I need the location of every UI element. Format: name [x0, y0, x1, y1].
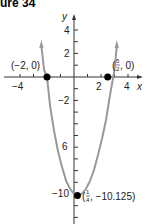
tick-label-x-2: 2: [96, 81, 102, 92]
x-axis-label: x: [136, 81, 143, 92]
tick-label-x-4: 4: [124, 81, 130, 92]
parabola-curve-fit: [41, 46, 116, 196]
tick-label-y-2: 2: [64, 48, 70, 59]
point-label-left: (−2, 0): [11, 60, 40, 71]
y-ticks: [74, 30, 78, 217]
parabola-chart: x y −4 2 4 4 2 −2 6 −10 (−2, 0) ( 5 2 , …: [0, 0, 147, 224]
y-axis-label: y: [61, 11, 68, 22]
point-x-intercept-right: [104, 74, 111, 81]
point-label-vertex-close: , −10.125): [90, 191, 135, 202]
point-x-intercept-left: [44, 74, 51, 81]
tick-label-y-m10: −10: [52, 188, 69, 199]
tick-label-y-m6: 6: [62, 141, 68, 152]
tick-label-y-4: 4: [64, 25, 70, 36]
point-vertex: [74, 192, 81, 199]
tick-label-x-m4: −4: [12, 81, 24, 92]
tick-label-y-m2: −2: [58, 95, 70, 106]
point-label-right-close: , 0): [120, 60, 134, 71]
curve-arrow-left-icon: [39, 40, 43, 48]
x-axis-arrow-icon: [137, 75, 143, 79]
y-axis-arrow-icon: [72, 14, 76, 20]
curve-arrow-right-icon: [115, 40, 119, 48]
